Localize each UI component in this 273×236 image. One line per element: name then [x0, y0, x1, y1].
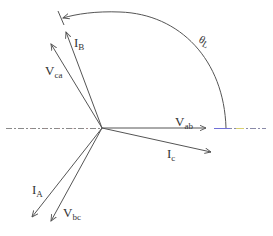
phasor-ia — [32, 128, 102, 217]
phasor-ic — [102, 128, 211, 152]
label-vab: Vab — [175, 114, 193, 131]
label-vbc: Vbc — [63, 205, 81, 222]
label-ic: Ic — [167, 146, 175, 163]
label-ib: IB — [74, 35, 84, 52]
label-ia: IA — [32, 182, 43, 199]
phasor-vca — [51, 44, 102, 128]
phasor-diagram: IB Vca Vab Ic IA Vbc θL — [0, 0, 273, 236]
angle-arc — [58, 11, 226, 128]
label-theta-l: θL — [196, 33, 212, 51]
label-vca: Vca — [45, 63, 62, 80]
phasor-vbc — [51, 128, 102, 221]
